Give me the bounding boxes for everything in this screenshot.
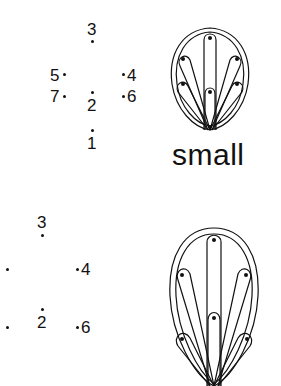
point-label-1: 1 [87, 135, 96, 152]
point-marker-2 [91, 91, 94, 94]
point-label-4: 4 [127, 67, 136, 84]
scale-diagram-large-icon [164, 226, 264, 386]
point-marker-3-large [41, 234, 44, 237]
point-marker-5 [63, 73, 66, 76]
point-marker-4-large [76, 268, 79, 271]
point-marker-6-large [76, 326, 79, 329]
point-label-5: 5 [50, 67, 59, 84]
point-label-4-large: 4 [81, 261, 90, 278]
point-label-3-large: 3 [37, 214, 46, 231]
point-label-2: 2 [87, 97, 96, 114]
point-marker-2-large [41, 308, 44, 311]
scale-diagram-small-icon [168, 26, 252, 136]
bottom-panel: 3 4 2 6 [0, 190, 281, 374]
point-marker-left-upper [6, 268, 9, 271]
point-label-3: 3 [87, 21, 96, 38]
top-panel: 3 5 4 7 2 6 1 [0, 0, 281, 190]
point-label-2-large: 2 [37, 314, 46, 331]
point-label-6: 6 [127, 88, 136, 105]
point-label-6-large: 6 [81, 319, 90, 336]
point-marker-4 [122, 73, 125, 76]
point-marker-7 [63, 95, 66, 98]
point-marker-left-lower [6, 326, 9, 329]
point-marker-6 [122, 95, 125, 98]
point-label-7: 7 [50, 88, 59, 105]
point-marker-1 [91, 129, 94, 132]
size-label-small: small [172, 140, 245, 170]
point-marker-3 [91, 40, 94, 43]
